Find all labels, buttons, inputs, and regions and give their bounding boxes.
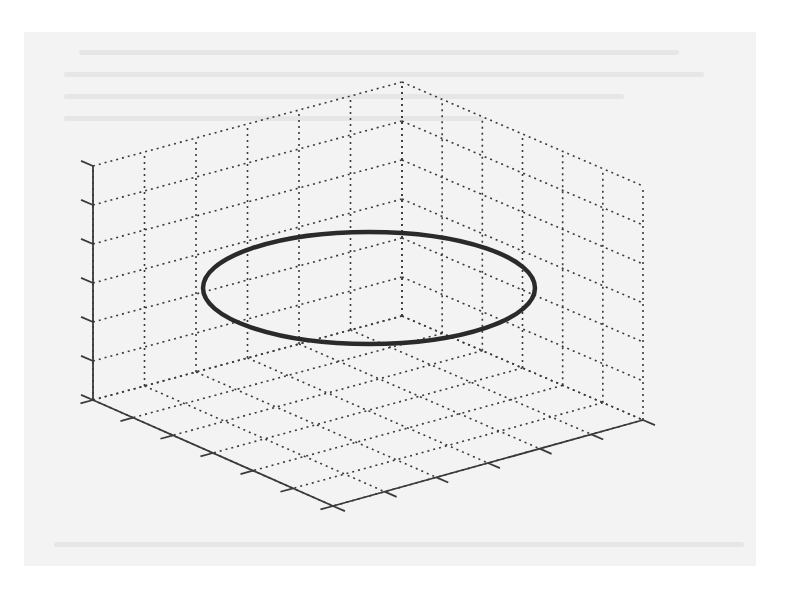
grid-line	[173, 351, 482, 436]
y-tick	[436, 477, 448, 482]
x-tick	[320, 506, 333, 509]
grid-line	[293, 403, 603, 489]
z-tick	[81, 395, 93, 400]
grid-line	[402, 121, 643, 225]
x-tick	[120, 418, 133, 421]
z-tick	[81, 356, 93, 361]
grid-line	[93, 277, 402, 361]
x-tick	[200, 453, 213, 456]
y-tick	[333, 506, 345, 511]
axes	[80, 161, 654, 511]
z-tick	[81, 317, 93, 322]
x-tick	[280, 488, 293, 491]
grid-line	[93, 199, 402, 283]
y-tick	[385, 492, 397, 497]
y-tick	[591, 434, 603, 439]
z-tick	[81, 239, 93, 244]
grid-line	[213, 368, 523, 453]
y-tick	[540, 449, 552, 454]
grid-line	[93, 121, 402, 205]
z-tick	[81, 200, 93, 205]
z-tick	[81, 278, 93, 283]
x-tick	[80, 400, 93, 403]
x-tick	[160, 435, 173, 438]
x-tick	[240, 471, 253, 474]
y-tick	[643, 420, 655, 425]
grid-line	[402, 277, 643, 381]
grid-line	[402, 82, 643, 186]
y-tick	[488, 463, 500, 468]
3d-plot	[0, 0, 787, 589]
grid-line	[402, 199, 643, 303]
circle-curve	[203, 232, 535, 344]
z-tick	[81, 161, 93, 166]
